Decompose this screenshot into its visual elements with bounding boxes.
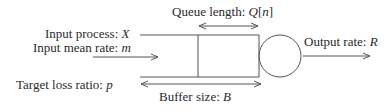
input-mean-rate-label: Input mean rate: m xyxy=(33,41,131,55)
buffer-size-label: Buffer size: B xyxy=(159,90,231,104)
target-loss-ratio-var: p xyxy=(106,77,113,92)
input-process-var: X xyxy=(122,26,130,41)
queue-length-label: Queue length: Q[n] xyxy=(172,5,273,19)
queue-length-var: Q xyxy=(249,4,258,19)
server-circle xyxy=(259,35,301,77)
target-loss-ratio-label: Target loss ratio: p xyxy=(16,78,113,92)
input-process-label: Input process: X xyxy=(45,27,130,41)
queue-length-index: [n] xyxy=(258,4,273,19)
output-rate-var: R xyxy=(370,34,378,49)
input-mean-rate-var: m xyxy=(121,40,130,55)
buffer-size-var: B xyxy=(223,89,231,104)
output-rate-label: Output rate: R xyxy=(304,35,378,49)
